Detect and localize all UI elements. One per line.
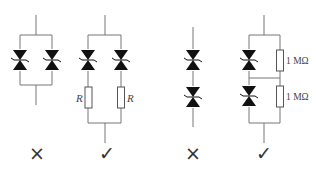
resistor-icon [277,50,284,71]
tvs-diode-icon [239,49,259,71]
tvs-diode-icon [42,49,62,71]
tvs-diode-icon [10,49,30,71]
incorrect-mark: × [29,142,45,164]
tvs-diode-icon [183,86,203,108]
resistor-label: 1 MΩ [286,56,309,66]
circuit-series-with-balancing-resistor: 1 MΩ 1 MΩ ✓ [239,15,309,164]
resistor-label: R [126,92,134,104]
tvs-connection-diagram: × R R ✓ × 1 MΩ 1 MΩ ✓ [0,0,316,173]
resistor-icon [277,86,284,107]
resistor-icon [85,87,92,108]
incorrect-mark: × [185,142,201,164]
circuit-parallel-no-resistor: × [10,15,62,164]
tvs-diode-icon [183,49,203,71]
circuit-parallel-with-resistor: R R ✓ [75,15,134,164]
correct-mark: ✓ [256,142,272,164]
circuit-series-no-resistor: × [183,27,203,164]
tvs-diode-icon [111,49,131,71]
resistor-label: 1 MΩ [286,92,309,102]
tvs-diode-icon [239,85,259,107]
correct-mark: ✓ [99,142,115,164]
resistor-label: R [75,92,83,104]
tvs-diode-icon [78,49,98,71]
resistor-icon [118,87,125,108]
